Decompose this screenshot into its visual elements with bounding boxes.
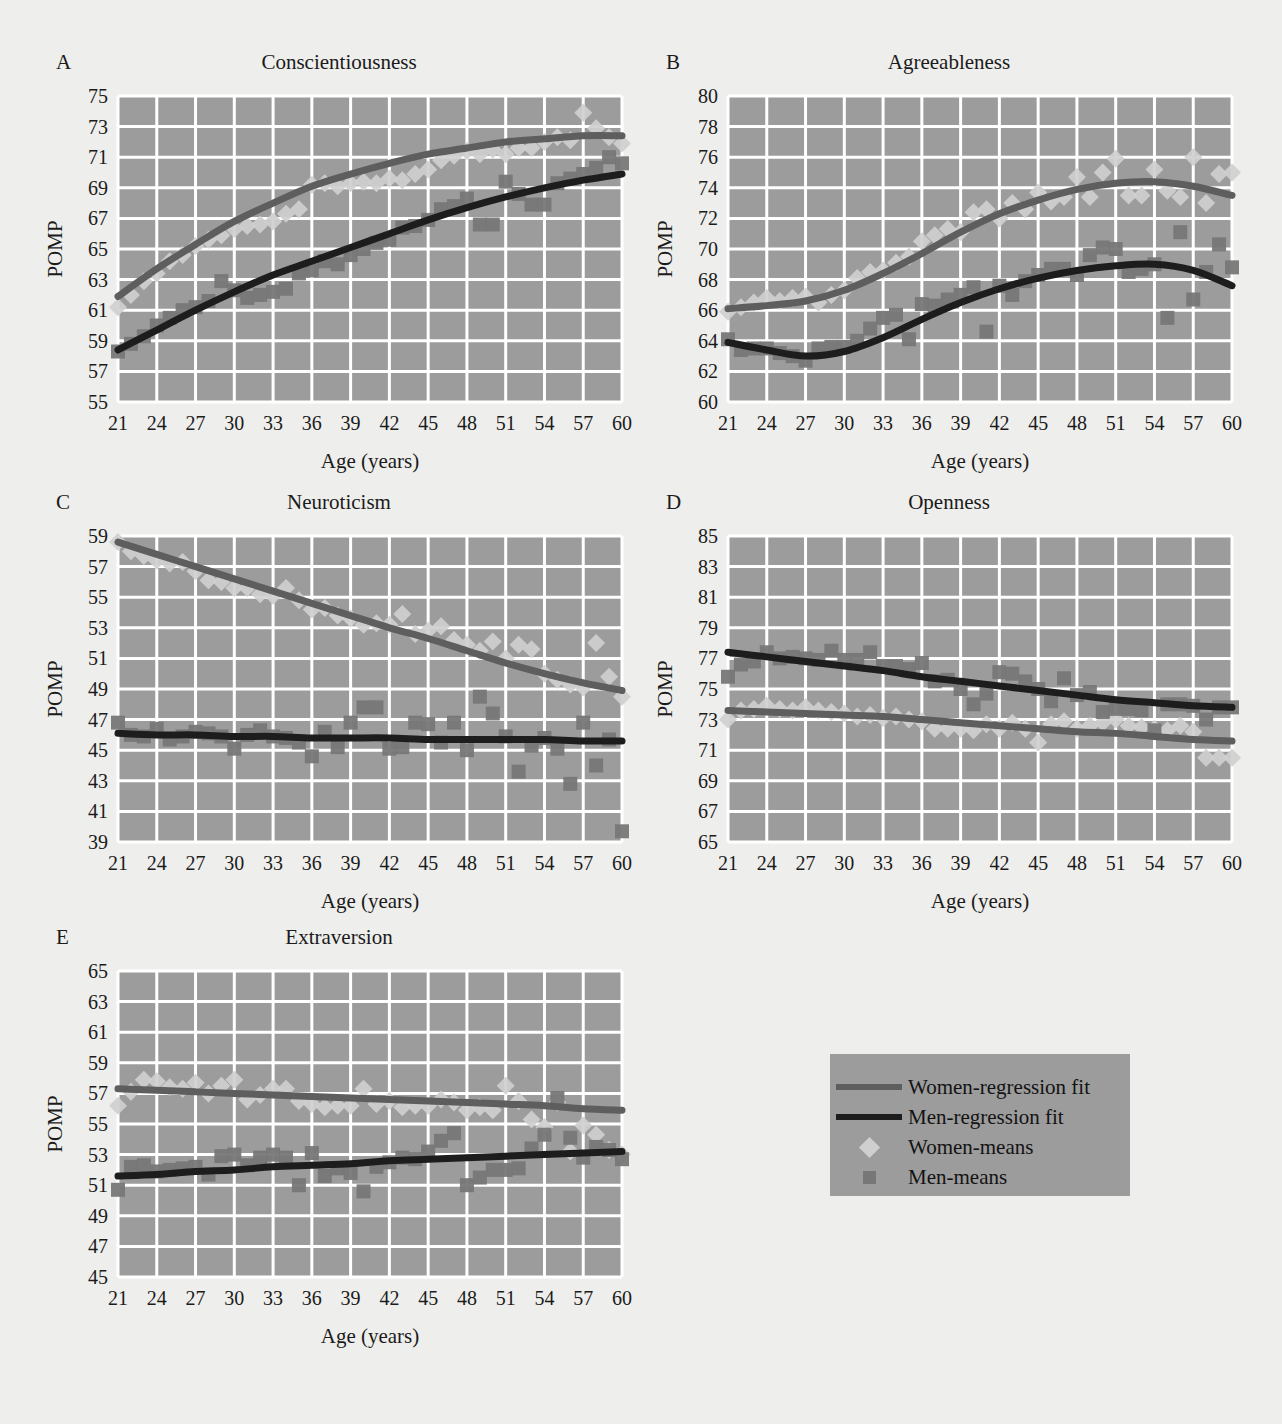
y-tick-label: 55: [88, 391, 108, 413]
data-point-men: [499, 1163, 513, 1177]
data-point-men: [111, 716, 125, 730]
x-tick-label: 27: [186, 1287, 206, 1309]
figure-canvas: AConscientiousness5557596163656769717375…: [14, 14, 1268, 1374]
x-tick-label: 21: [108, 412, 128, 434]
x-tick-label: 60: [1222, 412, 1242, 434]
legend-key-diamond: [830, 1140, 908, 1155]
y-tick-label: 70: [698, 238, 718, 260]
x-axis-title: Age (years): [931, 449, 1030, 473]
legend-key-square: [830, 1171, 908, 1184]
x-tick-label: 30: [224, 1287, 244, 1309]
legend-diamond-marker-icon: [858, 1136, 879, 1157]
data-point-men: [357, 700, 371, 714]
data-point-men: [421, 717, 435, 731]
data-point-men: [473, 1171, 487, 1185]
plot-area-e: 4547495153555759616365212427303336394245…: [34, 929, 644, 1369]
panel-conscientiousness: AConscientiousness5557596163656769717375…: [34, 54, 644, 494]
x-axis-title: Age (years): [931, 889, 1030, 913]
x-tick-label: 27: [186, 412, 206, 434]
data-point-men: [902, 332, 916, 346]
x-axis-title: Age (years): [321, 889, 420, 913]
panel-agreeableness: BAgreeableness60626466687072747678802124…: [644, 54, 1254, 494]
x-tick-label: 33: [873, 412, 893, 434]
data-point-men: [318, 1169, 332, 1183]
x-tick-label: 24: [147, 412, 167, 434]
data-point-men: [876, 311, 890, 325]
data-point-men: [512, 765, 526, 779]
data-point-men: [589, 161, 603, 175]
y-tick-label: 53: [88, 1144, 108, 1166]
y-tick-label: 80: [698, 85, 718, 107]
plot-area-c: 3941434547495153555759212427303336394245…: [34, 494, 644, 934]
x-tick-label: 30: [224, 412, 244, 434]
y-tick-label: 59: [88, 330, 108, 352]
data-point-men: [1160, 311, 1174, 325]
x-tick-label: 48: [1067, 852, 1087, 874]
data-point-men: [915, 656, 929, 670]
data-point-men: [1057, 671, 1071, 685]
data-point-men: [486, 218, 500, 232]
data-point-men: [1199, 713, 1213, 727]
data-point-men: [889, 308, 903, 322]
data-point-men: [721, 670, 735, 684]
data-point-men: [111, 1183, 125, 1197]
panel-title: Extraversion: [34, 925, 644, 950]
x-tick-label: 45: [1028, 852, 1048, 874]
x-tick-label: 51: [496, 412, 516, 434]
x-tick-label: 24: [757, 412, 777, 434]
data-point-men: [499, 175, 513, 189]
x-tick-label: 48: [457, 1287, 477, 1309]
data-point-men: [589, 759, 603, 773]
x-tick-label: 48: [457, 852, 477, 874]
legend-item: Men-regression fit: [830, 1102, 1130, 1132]
x-tick-label: 54: [534, 412, 554, 434]
legend-line-swatch: [836, 1114, 902, 1120]
panel-extraversion: EExtraversion454749515355575961636521242…: [34, 929, 644, 1369]
data-point-men: [576, 716, 590, 730]
data-point-men: [214, 274, 228, 288]
x-tick-label: 39: [341, 852, 361, 874]
x-tick-label: 30: [834, 412, 854, 434]
data-point-men: [447, 716, 461, 730]
plot-area-a: 5557596163656769717375212427303336394245…: [34, 54, 644, 494]
y-tick-label: 76: [698, 146, 718, 168]
data-point-men: [563, 1131, 577, 1145]
data-point-men: [512, 1161, 526, 1175]
data-point-men: [915, 297, 929, 311]
x-tick-label: 33: [263, 412, 283, 434]
y-tick-label: 49: [88, 1205, 108, 1227]
data-point-men: [979, 325, 993, 339]
x-axis-title: Age (years): [321, 1324, 420, 1348]
x-tick-label: 51: [1106, 852, 1126, 874]
y-tick-label: 59: [88, 1052, 108, 1074]
y-tick-label: 74: [698, 177, 718, 199]
x-tick-label: 24: [147, 1287, 167, 1309]
data-point-men: [357, 1184, 371, 1198]
data-point-men: [824, 644, 838, 658]
x-tick-label: 45: [1028, 412, 1048, 434]
y-axis-title: POMP: [43, 220, 67, 277]
legend-label: Women-means: [908, 1135, 1033, 1160]
x-tick-label: 60: [1222, 852, 1242, 874]
data-point-men: [331, 257, 345, 271]
y-tick-label: 77: [698, 647, 718, 669]
data-point-men: [344, 1166, 358, 1180]
data-point-men: [266, 285, 280, 299]
y-tick-label: 49: [88, 678, 108, 700]
x-tick-label: 30: [834, 852, 854, 874]
panel-title: Conscientiousness: [34, 50, 644, 75]
data-point-men: [992, 665, 1006, 679]
data-point-men: [227, 742, 241, 756]
y-tick-label: 72: [698, 207, 718, 229]
data-point-men: [1109, 702, 1123, 716]
x-tick-label: 51: [1106, 412, 1126, 434]
y-tick-label: 61: [88, 1021, 108, 1043]
x-tick-label: 24: [757, 852, 777, 874]
data-point-men: [137, 1158, 151, 1172]
y-tick-label: 65: [88, 960, 108, 982]
data-point-men: [447, 1126, 461, 1140]
x-tick-label: 39: [951, 412, 971, 434]
y-tick-label: 53: [88, 617, 108, 639]
x-tick-label: 27: [186, 852, 206, 874]
x-tick-label: 57: [573, 412, 593, 434]
